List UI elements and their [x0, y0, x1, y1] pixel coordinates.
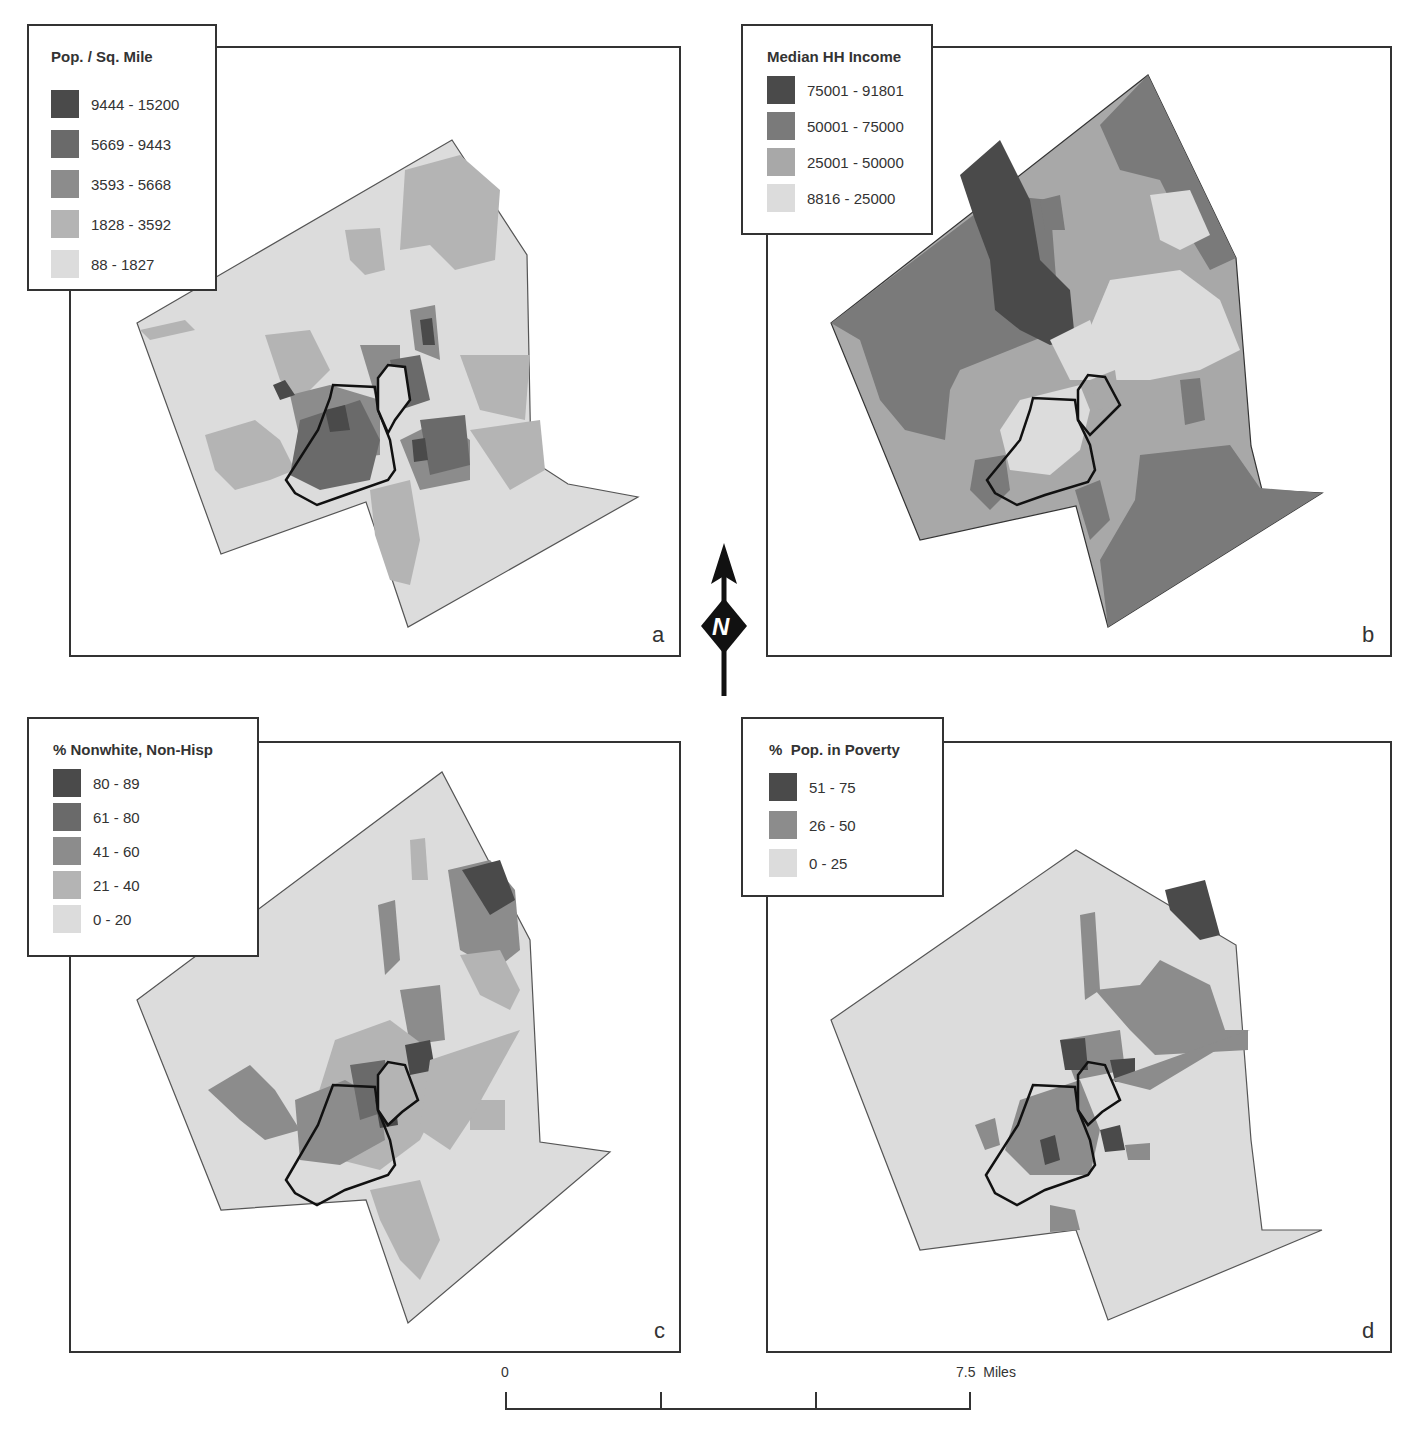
legend-label: 8816 - 25000 — [807, 190, 895, 207]
legend-label: 61 - 80 — [93, 809, 140, 826]
legend-swatch — [767, 148, 795, 176]
legend-item: 0 - 20 — [53, 905, 131, 933]
legend-swatch — [51, 90, 79, 118]
legend-item: 88 - 1827 — [51, 250, 154, 278]
legend-item: 80 - 89 — [53, 769, 140, 797]
legend-swatch — [767, 184, 795, 212]
scale-bar-graphic — [500, 1360, 1020, 1410]
legend-nonwhite: % Nonwhite, Non-Hisp 80 - 89 61 - 80 41 … — [27, 717, 259, 957]
legend-title: Pop. / Sq. Mile — [51, 48, 153, 65]
legend-item: 25001 - 50000 — [767, 148, 904, 176]
legend-item: 26 - 50 — [769, 811, 856, 839]
legend-label: 9444 - 15200 — [91, 96, 179, 113]
legend-swatch — [53, 769, 81, 797]
legend-label: 26 - 50 — [809, 817, 856, 834]
legend-swatch — [51, 210, 79, 238]
legend-title: % Nonwhite, Non-Hisp — [53, 741, 213, 758]
legend-item: 0 - 25 — [769, 849, 847, 877]
legend-title: Median HH Income — [767, 48, 901, 65]
legend-swatch — [51, 170, 79, 198]
legend-label: 88 - 1827 — [91, 256, 154, 273]
legend-item: 50001 - 75000 — [767, 112, 904, 140]
legend-swatch — [51, 250, 79, 278]
legend-item: 9444 - 15200 — [51, 90, 179, 118]
legend-item: 41 - 60 — [53, 837, 140, 865]
legend-label: 50001 - 75000 — [807, 118, 904, 135]
legend-swatch — [53, 837, 81, 865]
panel-label-d: d — [1362, 1318, 1374, 1344]
map-d — [831, 850, 1322, 1320]
legend-label: 51 - 75 — [809, 779, 856, 796]
panel-label-c: c — [654, 1318, 665, 1344]
north-label: N — [712, 613, 729, 641]
legend-item: 8816 - 25000 — [767, 184, 895, 212]
panel-label-a: a — [652, 622, 664, 648]
north-arrow: N — [700, 540, 750, 700]
legend-label: 1828 - 3592 — [91, 216, 171, 233]
legend-swatch — [769, 773, 797, 801]
legend-pop-density: Pop. / Sq. Mile 9444 - 15200 5669 - 9443… — [27, 24, 217, 291]
legend-item: 3593 - 5668 — [51, 170, 171, 198]
legend-swatch — [53, 905, 81, 933]
scale-bar: 0 7.5 Miles — [500, 1360, 1020, 1410]
legend-poverty: % Pop. in Poverty 51 - 75 26 - 50 0 - 25 — [741, 717, 944, 897]
legend-label: 80 - 89 — [93, 775, 140, 792]
legend-median-income: Median HH Income 75001 - 91801 50001 - 7… — [741, 24, 933, 235]
legend-swatch — [769, 811, 797, 839]
legend-label: 3593 - 5668 — [91, 176, 171, 193]
legend-label: 21 - 40 — [93, 877, 140, 894]
legend-label: 25001 - 50000 — [807, 154, 904, 171]
legend-item: 1828 - 3592 — [51, 210, 171, 238]
legend-swatch — [767, 112, 795, 140]
legend-label: 75001 - 91801 — [807, 82, 904, 99]
legend-item: 75001 - 91801 — [767, 76, 904, 104]
legend-swatch — [769, 849, 797, 877]
legend-item: 61 - 80 — [53, 803, 140, 831]
legend-label: 0 - 25 — [809, 855, 847, 872]
legend-item: 51 - 75 — [769, 773, 856, 801]
legend-swatch — [53, 871, 81, 899]
legend-swatch — [767, 76, 795, 104]
legend-swatch — [53, 803, 81, 831]
legend-label: 0 - 20 — [93, 911, 131, 928]
legend-item: 21 - 40 — [53, 871, 140, 899]
legend-swatch — [51, 130, 79, 158]
legend-item: 5669 - 9443 — [51, 130, 171, 158]
legend-label: 41 - 60 — [93, 843, 140, 860]
legend-title: % Pop. in Poverty — [769, 741, 900, 758]
panel-label-b: b — [1362, 622, 1374, 648]
legend-label: 5669 - 9443 — [91, 136, 171, 153]
